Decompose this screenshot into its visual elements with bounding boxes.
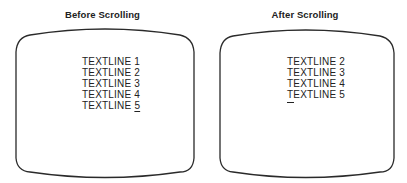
text-line: TEXTLINE 3 [287,67,345,78]
text-line: TEXTLINE 2 [287,56,345,67]
text-line-prefix: TEXTLINE [82,100,134,111]
panel-after-scrolling: After Scrolling TEXTLINE 2 TEXTLINE 3 TE… [205,0,407,183]
text-line: TEXTLINE 5 [287,89,345,100]
cursor-underline: 5 [134,100,140,111]
text-line-with-cursor: TEXTLINE 5 [82,100,140,111]
text-line: TEXTLINE 3 [82,78,140,89]
screen-text: TEXTLINE 1 TEXTLINE 2 TEXTLINE 3 TEXTLIN… [82,56,140,111]
text-line: TEXTLINE 2 [82,67,140,78]
text-line: TEXTLINE 4 [287,78,345,89]
cursor-underline [287,102,294,103]
panel-before-scrolling: Before Scrolling TEXTLINE 1 TEXTLINE 2 T… [0,0,210,183]
screen-text: TEXTLINE 2 TEXTLINE 3 TEXTLINE 4 TEXTLIN… [287,56,345,103]
text-line: TEXTLINE 4 [82,89,140,100]
text-line: TEXTLINE 1 [82,56,140,67]
